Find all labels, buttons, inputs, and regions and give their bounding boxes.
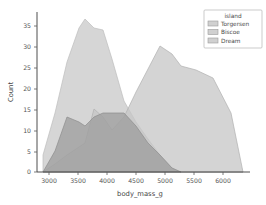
x-axis-label: body_mass_g [117,190,163,198]
y-axis-label: Count [7,82,15,103]
x-tick-label-0: 3000 [41,177,57,184]
y-tick-label-5: 25 [23,64,31,71]
legend-label-dream: Dream [221,38,241,44]
y-tick-label-2: 10 [23,127,31,134]
legend-label-torgersen: Torgersen [220,21,250,28]
x-tick-label-2: 4000 [99,177,115,184]
legend-swatch-dream [208,38,218,43]
y-tick-label-0: 0 [27,168,31,175]
x-tick-label-5: 5500 [186,177,202,184]
legend-title: island [224,13,241,19]
y-tick-label-4: 20 [23,85,31,92]
x-axis-ticks: 3000 3500 4000 4500 5000 5500 6000 [41,172,231,184]
y-tick-label-7: 35 [23,22,31,29]
x-tick-label-3: 4500 [128,177,144,184]
legend-item-dream[interactable]: Dream [208,38,241,44]
x-tick-label-4: 5000 [157,177,173,184]
legend-item-biscoe[interactable]: Biscoe [208,29,240,35]
y-axis-ticks: 0 5 10 15 20 25 30 35 [23,22,37,175]
legend[interactable]: island Torgersen Biscoe Dream [204,10,262,48]
legend-label-biscoe: Biscoe [221,29,240,35]
legend-swatch-biscoe [208,30,218,35]
y-tick-label-6: 30 [23,43,31,50]
y-tick-label-1: 5 [27,148,31,155]
x-tick-label-6: 6000 [215,177,231,184]
chart-plot: 3000 3500 4000 4500 5000 5500 6000 0 5 1… [0,0,266,205]
x-tick-label-1: 3500 [70,177,86,184]
y-tick-label-3: 15 [23,106,31,113]
legend-swatch-torgersen [208,21,218,26]
figure-canvas: 3000 3500 4000 4500 5000 5500 6000 0 5 1… [0,0,266,205]
